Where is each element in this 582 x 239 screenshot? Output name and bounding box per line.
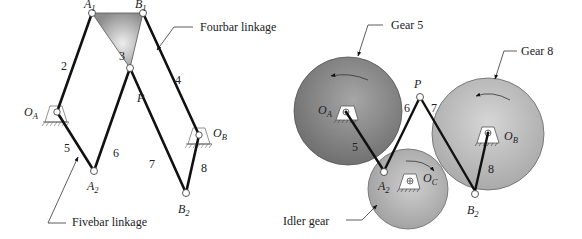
link-number-5: 5 (64, 141, 70, 155)
pin-p-right (417, 94, 424, 101)
gear-5-leader-arrow (358, 25, 383, 56)
link-number-8-right: 8 (488, 162, 494, 176)
link-number-4: 4 (175, 73, 181, 87)
fourbar-linkage-label: Fourbar linkage (200, 20, 276, 34)
link-number-6: 6 (113, 146, 119, 160)
link-6 (94, 68, 130, 171)
fivebar-linkage-label: Fivebar linkage (72, 215, 147, 229)
label-b2: B2 (178, 202, 190, 218)
pin-ob (196, 132, 202, 138)
linkage-diagrams: Fourbar linkage Fivebar linkage A1 B1 P … (0, 0, 582, 239)
pin-oa (54, 109, 60, 115)
gear-5-label: Gear 5 (391, 18, 423, 32)
label-ob: OB (213, 126, 227, 142)
geared-fivebar-diagram: Gear 5 Gear 8 Idler gear P OA OB OC A2 B… (283, 18, 553, 229)
label-oa: OA (24, 105, 39, 121)
label-a2: A2 (86, 179, 99, 195)
link-number-3: 3 (119, 49, 125, 63)
pin-a2-right (381, 169, 388, 176)
link-number-2: 2 (61, 59, 67, 73)
fivebar-fourbar-diagram: Fourbar linkage Fivebar linkage A1 B1 P … (24, 0, 276, 229)
label-b2-right: B2 (467, 203, 479, 219)
link-number-8: 8 (201, 161, 207, 175)
pin-b2 (183, 190, 190, 197)
pin-a2 (91, 168, 98, 175)
gear-8-label: Gear 8 (521, 44, 553, 58)
coupler-link-3 (92, 13, 143, 68)
link-number-7-right: 7 (431, 101, 437, 115)
label-p: P (136, 91, 145, 105)
label-p-right: P (413, 77, 422, 91)
link-number-5-right: 5 (352, 140, 358, 154)
pin-b2-right (472, 191, 479, 198)
gear-8-leader-arrow (495, 51, 517, 79)
idler-gear-label: Idler gear (283, 214, 329, 228)
link-number-6-right: 6 (404, 101, 410, 115)
pin-p (127, 65, 134, 72)
fourbar-leader-arrow (157, 27, 193, 50)
link-number-7: 7 (149, 157, 155, 171)
fivebar-leader-arrow (48, 157, 78, 223)
